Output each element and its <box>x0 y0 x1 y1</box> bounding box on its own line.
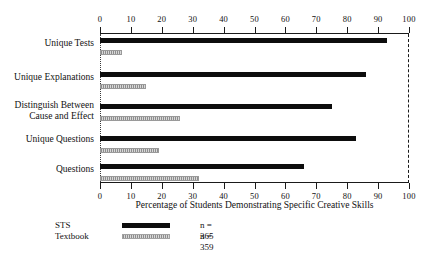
x-tick-top <box>316 27 317 33</box>
category-label-line: Unique Questions <box>0 134 94 145</box>
bar-sts <box>100 72 366 77</box>
x-tick-label-top: 80 <box>334 14 360 24</box>
x-tick-top <box>285 27 286 33</box>
x-tick-label-top: 60 <box>272 14 298 24</box>
x-tick-bottom <box>162 183 163 189</box>
bar-textbook <box>100 50 122 55</box>
category-label: Questions <box>0 164 94 175</box>
category-label: Unique Tests <box>0 38 94 49</box>
bar-sts <box>100 136 356 141</box>
category-label: Distinguish BetweenCause and Effect <box>0 100 94 121</box>
x-tick-top <box>193 27 194 33</box>
bar-chart: 0102030405060708090100 01020304050607080… <box>0 0 429 253</box>
x-tick-top <box>131 27 132 33</box>
x-tick-bottom <box>224 183 225 189</box>
x-tick-label-top: 50 <box>242 14 268 24</box>
x-tick-bottom <box>255 183 256 189</box>
bar-textbook <box>100 84 146 89</box>
x-tick-label-top: 10 <box>118 14 144 24</box>
x-tick-top <box>100 27 101 33</box>
category-label-line: Unique Tests <box>0 38 94 49</box>
x-tick-bottom <box>131 183 132 189</box>
x-tick-label-top: 30 <box>180 14 206 24</box>
x-tick-label-top: 0 <box>87 14 113 24</box>
x-tick-label-top: 70 <box>303 14 329 24</box>
bar-textbook <box>100 148 159 153</box>
bar-sts <box>100 164 304 169</box>
bar-sts <box>100 104 332 109</box>
x-tick-top <box>162 27 163 33</box>
legend-n-textbook: n = 359 <box>200 231 214 253</box>
legend-swatch-sts <box>122 223 170 228</box>
x-tick-label-top: 20 <box>149 14 175 24</box>
x-tick-bottom <box>378 183 379 189</box>
category-label-line: Distinguish Between <box>0 100 94 111</box>
x-tick-label-top: 90 <box>365 14 391 24</box>
plot-area <box>100 34 409 182</box>
x-tick-label-top: 100 <box>396 14 422 24</box>
category-label: Unique Explanations <box>0 72 94 83</box>
x-tick-label-top: 40 <box>211 14 237 24</box>
category-label-line: Questions <box>0 164 94 175</box>
x-tick-bottom <box>285 183 286 189</box>
x-tick-bottom <box>316 183 317 189</box>
x-tick-top <box>409 27 410 33</box>
legend-swatch-textbook <box>122 234 170 239</box>
x-tick-bottom <box>347 183 348 189</box>
x-axis-title: Percentage of Students Demonstrating Spe… <box>100 200 409 210</box>
bar-sts <box>100 38 387 43</box>
x-tick-top <box>224 27 225 33</box>
legend-label-sts: STS <box>55 220 117 231</box>
x-tick-bottom <box>193 183 194 189</box>
x-tick-bottom <box>409 183 410 189</box>
x-tick-bottom <box>100 183 101 189</box>
bar-textbook <box>100 116 180 121</box>
category-label: Unique Questions <box>0 134 94 145</box>
x-tick-top <box>347 27 348 33</box>
bar-textbook <box>100 176 199 181</box>
legend-label-textbook: Textbook <box>55 231 117 242</box>
x-tick-top <box>378 27 379 33</box>
x-tick-top <box>255 27 256 33</box>
category-label-line: Unique Explanations <box>0 72 94 83</box>
category-label-line: Cause and Effect <box>0 111 94 122</box>
